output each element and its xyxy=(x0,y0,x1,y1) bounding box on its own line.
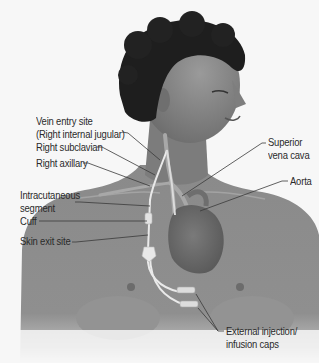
label-superior-vena-cava: Superior vena cava xyxy=(268,136,309,162)
label-right-axillary: Right axillary xyxy=(36,157,88,170)
label-caps-line2: infusion caps xyxy=(226,338,297,351)
catheter-diagram: Vein entry site (Right internal jugular)… xyxy=(0,0,319,363)
anatomy-illustration xyxy=(0,0,319,363)
head xyxy=(118,11,246,143)
label-svc-line2: vena cava xyxy=(268,149,309,162)
label-skin-exit-site: Skin exit site xyxy=(20,235,71,248)
cuff-marker xyxy=(145,213,152,224)
label-cuff: Cuff xyxy=(20,215,36,228)
label-aorta: Aorta xyxy=(290,175,312,188)
label-vein-entry-line1: Vein entry site xyxy=(36,115,125,128)
label-right-subclavian: Right subclavian xyxy=(36,141,102,154)
label-external-caps: External injection/ infusion caps xyxy=(226,325,297,351)
label-intracutaneous-segment: Intracutaneous segment xyxy=(20,189,80,215)
label-caps-line1: External injection/ xyxy=(226,325,297,338)
label-intracutaneous-line1: Intracutaneous xyxy=(20,189,80,202)
label-svc-line1: Superior xyxy=(268,136,309,149)
label-vein-entry-line2: (Right internal jugular) xyxy=(36,128,125,141)
label-vein-entry: Vein entry site (Right internal jugular) xyxy=(36,115,125,141)
infusion-cap-2 xyxy=(180,301,198,307)
label-intracutaneous-line2: segment xyxy=(20,202,80,215)
infusion-cap-1 xyxy=(177,287,195,293)
